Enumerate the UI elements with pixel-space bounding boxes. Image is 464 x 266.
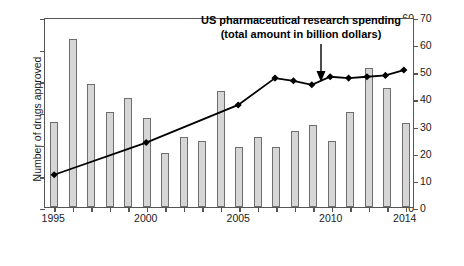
annotation-arrow-icon xyxy=(0,0,464,266)
chart-figure: 0102030405060 010203040506070 Number of … xyxy=(0,0,464,266)
